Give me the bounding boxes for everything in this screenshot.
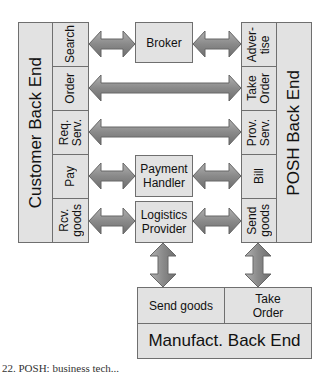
arrow-pay-payment [89,163,135,189]
customer-order: Order [52,66,89,111]
arrow-payment-bill [193,163,241,189]
posh-bill: Bill [241,154,277,199]
payment-handler: Payment Handler [135,155,193,197]
posh-advertise: Adver- tise [241,22,277,67]
manufact-send-goods: Send goods [137,287,225,324]
posh-back-end: POSH Back End [276,22,312,243]
manufact-back-end: Manufact. Back End [137,323,312,359]
posh-send-goods: Send goods [241,198,277,243]
customer-back-end: Customer Back End [18,22,53,243]
arrow-reqserv-provserv [89,119,241,145]
arrow-posh-manufact [245,243,271,287]
arrow-logistics-sendgoods [193,208,241,234]
customer-req-serv: Req. Serv. [52,110,89,155]
arrow-broker-advertise [193,31,241,57]
posh-prov-serv: Prov. Serv. [241,110,277,155]
arrow-order-takeorder [89,75,241,101]
manufact-take-order: Take Order [224,287,312,324]
customer-rcv-goods: Rcv. goods [52,198,89,243]
arrow-rcv-logistics [89,208,135,234]
figure-caption: 22. POSH: business tech... [2,362,119,374]
logistics-provider: Logistics Provider [135,201,193,243]
customer-pay: Pay [52,154,89,199]
broker: Broker [135,22,193,63]
customer-search: Search [52,22,89,67]
customer-back-end-title: Customer Back End [26,57,46,208]
posh-back-end-title: POSH Back End [284,70,304,196]
posh-take-order: Take Order [241,66,277,111]
arrow-search-broker [89,31,135,57]
arrow-logistics-manufact [150,243,176,287]
